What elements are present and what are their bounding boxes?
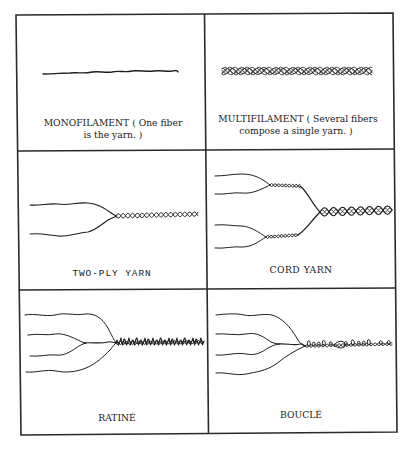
monofilament-drawing <box>43 71 178 74</box>
panel-cord: CORD YARN <box>215 174 392 275</box>
multifilament-drawing <box>222 67 372 75</box>
panel-ratine: RATINÉ <box>25 314 204 423</box>
frame-divider-vertical <box>205 14 209 434</box>
frame-divider-row1 <box>17 149 394 151</box>
boucle-loop <box>329 342 332 346</box>
caption-ratine: RATINÉ <box>98 412 136 423</box>
boucle-loop <box>317 342 320 346</box>
caption-monofilament-line2: is the yarn. ) <box>84 129 143 140</box>
caption-boucle: BOUCLÉ <box>280 409 322 420</box>
caption-cord: CORD YARN <box>269 264 332 275</box>
frame-divider-row2 <box>19 288 396 290</box>
panel-monofilament: MONOFILAMENT ( One fiber is the yarn. ) <box>43 71 183 140</box>
boucle-loop <box>362 341 365 345</box>
caption-multifilament-line1: MULTIFILAMENT ( Several fibers <box>218 113 378 124</box>
caption-monofilament-line1: MONOFILAMENT ( One fiber <box>44 117 183 128</box>
two-ply-drawing <box>30 203 198 236</box>
boucle-drawing <box>216 314 392 375</box>
ratine-drawing <box>25 314 204 372</box>
cord-lower-ply-ascend <box>298 212 320 235</box>
cord-upper-ply-descend <box>300 186 320 212</box>
caption-multifilament-line2: compose a single yarn. ) <box>239 125 352 136</box>
panel-boucle: BOUCLÉ <box>216 314 392 420</box>
cord-drawing <box>215 174 392 248</box>
panel-multifilament: MULTIFILAMENT ( Several fibers compose a… <box>218 67 378 136</box>
caption-two-ply: TWO-PLY YARN <box>72 268 151 279</box>
yarn-types-figure: MONOFILAMENT ( One fiber is the yarn. ) … <box>0 0 413 450</box>
panel-two-ply: TWO-PLY YARN <box>30 203 198 279</box>
